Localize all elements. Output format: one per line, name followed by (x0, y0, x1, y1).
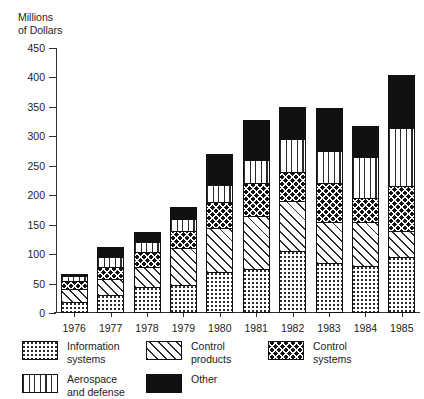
bar-segment (316, 183, 343, 221)
plot-area: 0501001502002503003504004501976197719781… (56, 48, 420, 313)
bar-segment (134, 232, 161, 242)
bar-segment (243, 120, 270, 160)
legend-label: Other (191, 373, 217, 386)
bar-segment (243, 216, 270, 269)
x-axis-tick (365, 313, 366, 317)
x-axis-tick (147, 313, 148, 317)
y-axis-tick (49, 284, 56, 285)
bar-segment (206, 228, 233, 272)
bar-segment (61, 281, 88, 289)
bar-segment (316, 263, 343, 313)
bar-segment (388, 257, 415, 313)
chart-legend: Information systemsControl productsContr… (0, 336, 424, 399)
y-axis-tick-label: 300 (11, 130, 45, 142)
bar-segment (206, 154, 233, 185)
y-axis-tick (49, 77, 56, 78)
bar-segment (134, 242, 161, 252)
bar-segment (97, 267, 124, 279)
y-axis-tick-label: 50 (11, 278, 45, 290)
bar-1981[interactable] (243, 120, 270, 313)
bar-segment (61, 276, 88, 281)
bar-segment (279, 139, 306, 171)
bar-segment (170, 207, 197, 219)
bar-segment (279, 172, 306, 201)
bar-1983[interactable] (316, 108, 343, 313)
bar-segment (316, 222, 343, 263)
bar-segment (97, 279, 124, 295)
y-axis-tick-label: 150 (11, 219, 45, 231)
y-axis-title: Millions of Dollars (18, 11, 62, 36)
y-axis-tick-label: 450 (11, 42, 45, 54)
bar-segment (170, 285, 197, 313)
legend-item[interactable]: Control systems (268, 340, 352, 365)
legend-item[interactable]: Other (146, 373, 217, 393)
legend-item[interactable]: Control products (146, 340, 231, 365)
bar-1980[interactable] (206, 154, 233, 313)
bar-segment (206, 202, 233, 227)
bar-segment (388, 75, 415, 128)
bar-1982[interactable] (279, 107, 306, 313)
x-axis-tick (111, 313, 112, 317)
y-axis-line (56, 48, 57, 313)
bar-segment (352, 126, 379, 157)
bar-segment (316, 108, 343, 151)
bar-segment (388, 231, 415, 258)
bar-segment (243, 183, 270, 215)
bar-segment (134, 287, 161, 314)
x-axis-tick (183, 313, 184, 317)
bar-segment (97, 247, 124, 256)
bar-segment (61, 274, 88, 276)
bar-1979[interactable] (170, 207, 197, 313)
y-axis-tick-label: 200 (11, 189, 45, 201)
legend-swatch-icon (146, 341, 182, 360)
x-axis-tick (402, 313, 403, 317)
y-axis-tick (49, 254, 56, 255)
legend-label: Aerospace and defense (67, 373, 125, 398)
y-axis-tick (49, 195, 56, 196)
legend-swatch-icon (22, 374, 58, 393)
bar-segment (352, 198, 379, 222)
x-axis-tick (293, 313, 294, 317)
y-axis-tick-label: 350 (11, 101, 45, 113)
legend-label: Control products (191, 340, 231, 365)
bar-segment (388, 186, 415, 230)
x-axis-tick (220, 313, 221, 317)
y-axis-tick-label: 250 (11, 160, 45, 172)
x-axis-tick (256, 313, 257, 317)
y-axis-tick (49, 136, 56, 137)
bar-segment (279, 201, 306, 251)
legend-item[interactable]: Aerospace and defense (22, 373, 125, 398)
legend-swatch-icon (22, 341, 58, 360)
bar-segment (170, 248, 197, 285)
bar-segment (243, 269, 270, 313)
legend-label: Information systems (67, 340, 120, 365)
y-axis-tick (49, 225, 56, 226)
x-axis-tick-label: 1985 (380, 322, 424, 334)
y-axis-tick (49, 107, 56, 108)
bar-segment (352, 222, 379, 266)
y-axis-tick (49, 313, 56, 314)
bar-segment (316, 151, 343, 183)
bar-segment (134, 252, 161, 267)
y-axis-tick-label: 0 (11, 307, 45, 319)
bar-segment (61, 302, 88, 313)
bar-segment (134, 267, 161, 286)
y-axis-tick-label: 400 (11, 71, 45, 83)
legend-item[interactable]: Information systems (22, 340, 120, 365)
bar-segment (97, 257, 124, 268)
bar-1976[interactable] (61, 274, 88, 313)
bar-1984[interactable] (352, 126, 379, 313)
bar-segment (279, 251, 306, 313)
bar-segment (206, 185, 233, 203)
bar-segment (388, 128, 415, 187)
bar-segment (170, 219, 197, 231)
bar-segment (279, 107, 306, 139)
bar-1977[interactable] (97, 247, 124, 313)
bar-segment (170, 231, 197, 249)
legend-swatch-icon (268, 341, 304, 360)
bar-segment (206, 272, 233, 313)
bar-1985[interactable] (388, 75, 415, 313)
bar-1978[interactable] (134, 232, 161, 313)
y-axis-tick (49, 48, 56, 49)
x-axis-tick (74, 313, 75, 317)
